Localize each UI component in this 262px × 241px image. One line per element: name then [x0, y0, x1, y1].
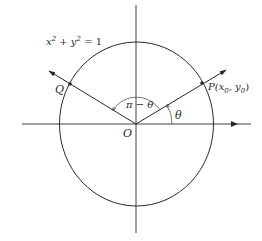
label-origin: O	[123, 128, 132, 139]
label-theta: θ	[175, 110, 182, 121]
label-q: Q	[55, 84, 64, 95]
label-p: P(x0, y0)	[208, 82, 249, 95]
point-p-dot	[200, 81, 204, 85]
x-axis-arrowhead-icon	[231, 121, 238, 127]
unit-circle-diagram	[0, 0, 262, 241]
circle-equation: x2 + y2 = 1	[46, 36, 102, 47]
label-pi-minus-theta: π − θ	[126, 100, 153, 110]
point-q-dot	[68, 82, 72, 86]
ray-oq	[49, 71, 136, 124]
angle-arc-theta	[167, 105, 172, 124]
